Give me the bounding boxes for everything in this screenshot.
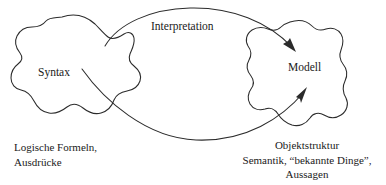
modell-caption: Objektstruktur Semantik, “bekannte Dinge… [231, 138, 383, 182]
syntax-blob-shape [11, 15, 141, 113]
syntax-caption: Logische Formeln, Ausdrücke [14, 140, 97, 169]
diagram-canvas: Syntax Modell Interpretation Logische Fo… [0, 0, 386, 185]
syntax-caption-line-2: Ausdrücke [14, 155, 97, 170]
modell-node-label: Modell [288, 60, 321, 74]
interpretation-edge-label: Interpretation [151, 19, 214, 33]
syntax-node-label: Syntax [38, 65, 70, 79]
modell-caption-line-2: Semantik, “bekannte Dinge”, [231, 153, 383, 168]
modell-caption-line-3: Aussagen [231, 167, 383, 182]
syntax-caption-line-1: Logische Formeln, [14, 140, 97, 155]
modell-caption-line-1: Objektstruktur [231, 138, 383, 153]
